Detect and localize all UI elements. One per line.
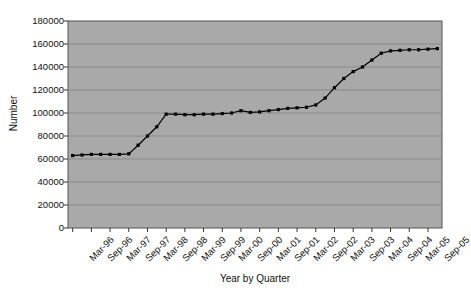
data-point-marker	[137, 144, 140, 147]
data-point-marker	[333, 86, 336, 89]
data-point-marker	[80, 153, 83, 156]
data-point-marker	[239, 109, 242, 112]
data-point-marker	[361, 65, 364, 68]
data-point-marker	[108, 153, 111, 156]
data-point-marker	[277, 108, 280, 111]
data-point-marker	[71, 154, 74, 157]
data-point-marker	[324, 96, 327, 99]
data-point-marker	[99, 153, 102, 156]
data-point-marker	[193, 113, 196, 116]
data-point-marker	[342, 77, 345, 80]
data-point-marker	[408, 48, 411, 51]
data-point-marker	[305, 106, 308, 109]
data-point-marker	[249, 111, 252, 114]
data-point-marker	[127, 152, 130, 155]
data-point-marker	[230, 111, 233, 114]
data-point-marker	[370, 59, 373, 62]
data-point-marker	[174, 113, 177, 116]
data-point-marker	[295, 106, 298, 109]
data-point-marker	[426, 48, 429, 51]
x-axis-tick-marks	[73, 228, 428, 232]
data-point-marker	[380, 52, 383, 55]
data-point-marker	[417, 48, 420, 51]
y-axis-tick-marks	[64, 21, 68, 228]
data-point-marker	[314, 103, 317, 106]
data-point-marker	[183, 113, 186, 116]
data-point-marker	[221, 112, 224, 115]
data-point-marker	[267, 109, 270, 112]
data-point-marker	[211, 113, 214, 116]
data-point-marker	[352, 70, 355, 73]
data-point-marker	[398, 49, 401, 52]
data-point-marker	[90, 153, 93, 156]
data-point-marker	[165, 113, 168, 116]
data-point-marker	[389, 49, 392, 52]
data-point-marker	[286, 107, 289, 110]
data-point-marker	[146, 134, 149, 137]
data-point-marker	[155, 125, 158, 128]
data-point-marker	[258, 110, 261, 113]
data-point-marker	[118, 153, 121, 156]
data-point-marker	[202, 113, 205, 116]
data-point-marker	[436, 47, 439, 50]
